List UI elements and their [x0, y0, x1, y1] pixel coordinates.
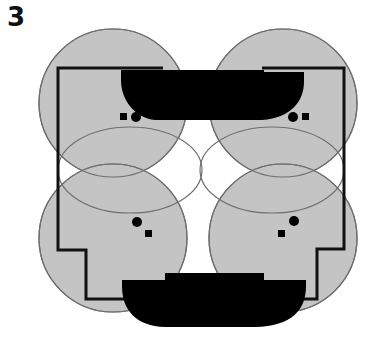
marker-square-bottom-right [278, 230, 285, 237]
marker-circle-bottom-left [132, 217, 142, 227]
marker-circle-top-left [131, 112, 141, 122]
marker-circle-bottom-right [289, 216, 299, 226]
marker-circle-top-right [288, 112, 298, 122]
marker-square-bottom-left [145, 230, 152, 237]
floor-plan-diagram [0, 0, 391, 338]
furniture-bottom [122, 273, 306, 327]
marker-square-top-right [302, 113, 309, 120]
marker-square-top-left [120, 113, 127, 120]
furniture-top [121, 70, 304, 120]
